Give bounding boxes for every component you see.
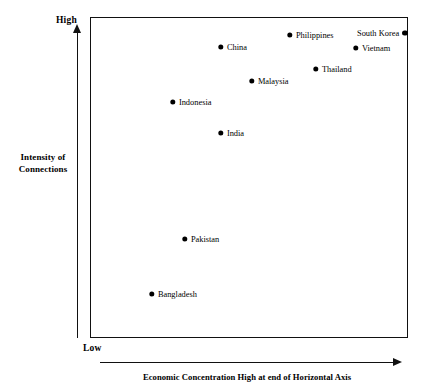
data-point: India xyxy=(218,129,244,138)
data-point: China xyxy=(218,43,247,52)
data-point-label: Philippines xyxy=(296,31,334,40)
plot-frame: PhilippinesSouth KoreaChinaVietnamThaila… xyxy=(90,17,408,338)
data-point: South Korea xyxy=(357,29,408,38)
data-point: Pakistan xyxy=(182,235,219,244)
data-point-marker xyxy=(218,44,223,49)
y-axis-high-label: High xyxy=(56,15,77,25)
data-point: Vietnam xyxy=(353,44,390,53)
data-point-label: Bangladesh xyxy=(158,290,197,299)
data-point-marker xyxy=(218,130,223,135)
data-point: Malaysia xyxy=(249,77,288,86)
data-point: Bangladesh xyxy=(149,290,197,299)
data-point-label: Indonesia xyxy=(179,98,212,107)
data-point: Philippines xyxy=(287,31,333,40)
data-point-marker xyxy=(149,291,154,296)
data-point-marker xyxy=(182,236,187,241)
data-point-marker xyxy=(402,30,407,35)
data-point-marker xyxy=(313,66,318,71)
x-axis-title: Economic Concentration High at end of Ho… xyxy=(100,372,394,382)
data-point-label: Malaysia xyxy=(258,77,289,86)
data-point-label: Pakistan xyxy=(191,235,219,244)
x-axis-arrowhead-icon xyxy=(393,358,402,366)
scatter-chart-canvas: High Low Intensity of Connections Philip… xyxy=(0,0,433,389)
data-point-label: China xyxy=(227,43,247,52)
data-point-label: Vietnam xyxy=(362,44,390,53)
data-point-label: India xyxy=(227,129,244,138)
data-point-marker xyxy=(353,45,358,50)
data-point-marker xyxy=(249,78,254,83)
data-point-marker xyxy=(170,99,175,104)
y-axis-title-line-2: Connections xyxy=(8,164,78,176)
data-point-marker xyxy=(287,32,292,37)
data-point: Thailand xyxy=(313,65,351,74)
data-point: Indonesia xyxy=(170,98,211,107)
x-axis-line xyxy=(100,362,394,363)
y-axis-title-line-1: Intensity of xyxy=(8,152,78,164)
data-point-label: Thailand xyxy=(322,65,352,74)
y-axis-low-label: Low xyxy=(83,343,102,353)
y-axis-title: Intensity of Connections xyxy=(8,152,78,175)
data-point-label: South Korea xyxy=(357,29,399,38)
y-axis-line xyxy=(77,32,78,338)
